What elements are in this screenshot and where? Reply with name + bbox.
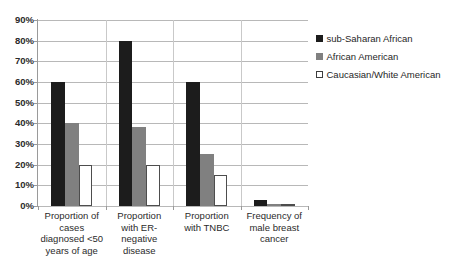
bar	[119, 41, 133, 206]
y-axis-tick-label: 90%	[0, 15, 34, 25]
legend-item-label: Caucasian/White American	[327, 70, 441, 80]
bar	[254, 200, 268, 206]
legend-item-label: sub-Saharan African	[327, 34, 413, 44]
y-axis-tick	[34, 82, 38, 83]
legend-item[interactable]: African American	[316, 49, 448, 64]
y-axis-tick	[34, 41, 38, 42]
y-axis-tick-label: 30%	[0, 139, 34, 149]
bar-group	[186, 20, 227, 206]
bar	[267, 204, 281, 206]
legend-swatch-icon	[316, 35, 323, 42]
category-separator	[106, 20, 107, 206]
bar-group	[254, 20, 295, 206]
bar	[214, 175, 228, 206]
x-axis-category-label: Proportionwith TNBC	[173, 210, 241, 233]
y-axis-tick-label: 0%	[0, 201, 34, 211]
x-axis-category-label: Proportionwith ER-negativedisease	[106, 210, 174, 256]
y-axis-tick-label: 10%	[0, 181, 34, 191]
bar	[186, 82, 200, 206]
category-separator	[173, 20, 174, 206]
legend-item[interactable]: sub-Saharan African	[316, 31, 448, 46]
y-axis-tick	[34, 185, 38, 186]
bar	[51, 82, 65, 206]
y-axis-line	[37, 19, 38, 207]
y-axis-tick	[34, 20, 38, 21]
plot-area	[38, 20, 308, 206]
y-axis-tick	[34, 123, 38, 124]
bar	[65, 123, 79, 206]
bar-group	[51, 20, 92, 206]
y-axis-tick-labels: 0%10%20%30%40%50%60%70%80%90%	[0, 0, 34, 266]
x-axis-category-labels: Proportion ofcasesdiagnosed <50years of …	[38, 210, 308, 266]
y-axis-tick	[34, 103, 38, 104]
category-separator	[241, 20, 242, 206]
bar	[281, 204, 295, 206]
y-axis-tick	[34, 61, 38, 62]
y-axis-tick-label: 20%	[0, 160, 34, 170]
legend-swatch-icon	[316, 71, 323, 78]
y-axis-tick-label: 80%	[0, 36, 34, 46]
legend-swatch-icon	[316, 53, 323, 60]
legend-item[interactable]: Caucasian/White American	[316, 67, 448, 82]
bar	[132, 127, 146, 206]
y-axis-tick-label: 70%	[0, 57, 34, 67]
legend-item-label: African American	[327, 52, 399, 62]
y-axis-tick	[34, 144, 38, 145]
x-axis-category-label: Frequency ofmale breastcancer	[241, 210, 309, 245]
bar-group	[119, 20, 160, 206]
bar	[79, 165, 93, 206]
y-axis-tick-label: 60%	[0, 77, 34, 87]
bar	[200, 154, 214, 206]
bar	[146, 165, 160, 206]
y-axis-tick-label: 40%	[0, 119, 34, 129]
grouped-bar-chart: 0%10%20%30%40%50%60%70%80%90% Proportion…	[0, 0, 450, 266]
x-axis-tick	[308, 206, 309, 210]
x-axis-category-label: Proportion ofcasesdiagnosed <50years of …	[38, 210, 106, 256]
y-axis-tick	[34, 165, 38, 166]
chart-legend: sub-Saharan AfricanAfrican AmericanCauca…	[316, 31, 448, 85]
y-axis-tick-label: 50%	[0, 98, 34, 108]
